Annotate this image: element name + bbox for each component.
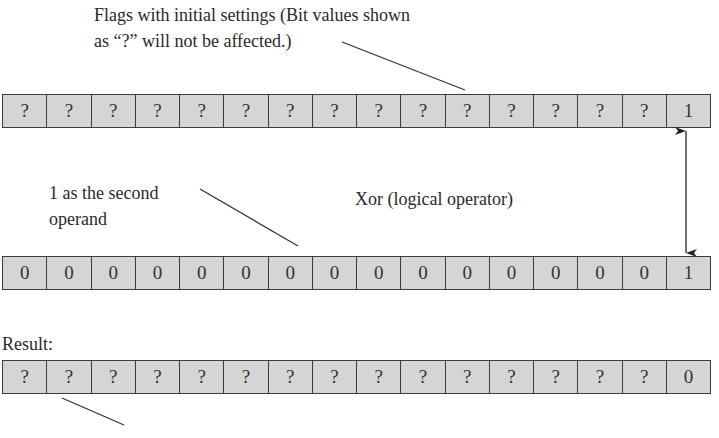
result-bit-2: ? <box>578 361 622 393</box>
flags-bit-6: ? <box>401 95 445 127</box>
flags-register: ? ? ? ? ? ? ? ? ? ? ? ? ? ? ? 1 <box>2 94 711 128</box>
flags-bit-14: ? <box>47 95 91 127</box>
result-bit-1: ? <box>623 361 667 393</box>
flags-bit-9: ? <box>269 95 313 127</box>
result-bit-8: ? <box>313 361 357 393</box>
flags-bit-8: ? <box>313 95 357 127</box>
flags-bit-12: ? <box>136 95 180 127</box>
flags-bit-15: ? <box>3 95 47 127</box>
flags-bit-10: ? <box>224 95 268 127</box>
operand-bit-13: 0 <box>92 257 136 289</box>
flags-bit-13: ? <box>92 95 136 127</box>
result-bit-0: 0 <box>667 361 710 393</box>
flags-bit-2: ? <box>578 95 622 127</box>
operand-caption-line1: 1 as the second <box>49 180 158 206</box>
operand-bit-2: 0 <box>578 257 622 289</box>
result-bit-6: ? <box>401 361 445 393</box>
operand-bit-3: 0 <box>534 257 578 289</box>
flags-callout-line <box>342 42 465 90</box>
operand-caption-line2: operand <box>49 206 107 232</box>
operand-bit-4: 0 <box>490 257 534 289</box>
result-bit-10: ? <box>224 361 268 393</box>
operand-bit-6: 0 <box>401 257 445 289</box>
flags-bit-1: ? <box>623 95 667 127</box>
flags-bit-4: ? <box>490 95 534 127</box>
operand-bit-5: 0 <box>446 257 490 289</box>
operand-bit-7: 0 <box>357 257 401 289</box>
flags-bit-11: ? <box>180 95 224 127</box>
operator-label: Xor (logical operator) <box>355 186 513 212</box>
operand-bit-10: 0 <box>224 257 268 289</box>
flags-bit-0: 1 <box>667 95 710 127</box>
operand-bit-12: 0 <box>136 257 180 289</box>
flags-bit-5: ? <box>446 95 490 127</box>
result-bit-7: ? <box>357 361 401 393</box>
result-bit-11: ? <box>180 361 224 393</box>
operand-bit-11: 0 <box>180 257 224 289</box>
flags-caption-line2: as “?” will not be affected.) <box>94 28 292 54</box>
result-bit-12: ? <box>136 361 180 393</box>
result-register: ? ? ? ? ? ? ? ? ? ? ? ? ? ? ? 0 <box>2 360 711 394</box>
result-bit-15: ? <box>3 361 47 393</box>
operand-bit-1: 0 <box>623 257 667 289</box>
result-bit-5: ? <box>446 361 490 393</box>
flags-bit-3: ? <box>534 95 578 127</box>
operand-bit-14: 0 <box>47 257 91 289</box>
result-bit-4: ? <box>490 361 534 393</box>
operand-callout-line <box>200 189 298 246</box>
operand-register: 0 0 0 0 0 0 0 0 0 0 0 0 0 0 0 1 <box>2 256 711 290</box>
operand-bit-8: 0 <box>313 257 357 289</box>
result-bit-9: ? <box>269 361 313 393</box>
flags-bit-7: ? <box>357 95 401 127</box>
result-bit-14: ? <box>47 361 91 393</box>
result-label: Result: <box>2 331 53 357</box>
flags-caption-line1: Flags with initial settings (Bit values … <box>94 2 410 28</box>
result-bit-13: ? <box>92 361 136 393</box>
result-callout-line <box>62 398 124 425</box>
operand-bit-15: 0 <box>3 257 47 289</box>
result-bit-3: ? <box>534 361 578 393</box>
operand-bit-9: 0 <box>269 257 313 289</box>
operand-bit-0: 1 <box>667 257 710 289</box>
